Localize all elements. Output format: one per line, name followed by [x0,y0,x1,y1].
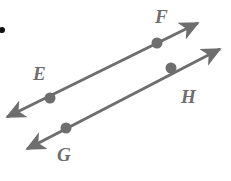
point-h-dot [166,63,177,74]
point-e-dot [45,93,56,104]
point-label-e: E [33,64,46,83]
point-f-dot [152,38,163,49]
geometry-figure: E F G H [0,0,231,181]
list-bullet-icon [0,27,5,33]
point-label-g: G [57,145,71,164]
point-label-f: F [155,7,168,26]
point-label-h: H [181,87,196,106]
point-g-dot [61,123,72,134]
geometry-canvas [0,0,231,181]
marked-points-group [45,38,177,134]
